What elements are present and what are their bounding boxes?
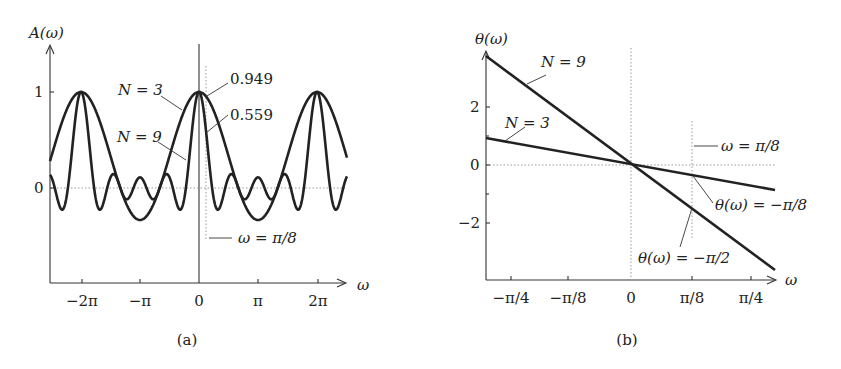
a-xtick: 0 [194,292,204,310]
a-xtick: −π [129,292,152,310]
panel-a: A(ω) 1 0 ω −2π −π 0 π 2π N = 3 N = 9 0.9… [27,24,369,349]
b-ytick: −2 [458,214,480,232]
a-value-0949: 0.949 [230,70,273,88]
a-x-label: ω [357,276,369,294]
b-ytick: 2 [470,98,480,116]
a-xtick: 2π [308,292,328,310]
b-ytick: 0 [470,156,480,174]
b-xtick: −π/4 [492,289,529,307]
b-y-label: θ(ω) [475,30,508,48]
a-ytick-1: 1 [34,83,44,101]
a-y-label: A(ω) [27,24,64,42]
b-caption: (b) [616,331,637,349]
a-label-n3: N = 3 [117,81,163,99]
b-xtick: π/4 [739,289,763,307]
a-xtick: −2π [66,292,98,310]
b-x-label: ω [785,271,797,289]
panel-b: θ(ω) 2 0 −2 ω −π/4 −π/8 0 π/8 π/4 N = 9 … [458,30,807,349]
figure-canvas: A(ω) 1 0 ω −2π −π 0 π 2π N = 3 N = 9 0.9… [0,0,841,369]
a-value-0559: 0.559 [230,106,273,124]
b-xtick: π/8 [680,289,704,307]
b-xtick: 0 [626,289,636,307]
b-theta-pi2-label: θ(ω) = −π/2 [638,249,730,267]
b-omega-annotation: ω = π/8 [721,137,780,155]
b-theta-pi8-label: θ(ω) = −π/8 [715,196,807,214]
a-omega-annotation: ω = π/8 [238,229,297,247]
b-label-n3: N = 3 [504,114,550,132]
b-label-n9: N = 9 [540,53,586,71]
b-xtick: −π/8 [549,289,586,307]
a-xtick: π [253,292,263,310]
a-ytick-0: 0 [34,179,44,197]
a-caption: (a) [177,331,198,349]
a-label-n9: N = 9 [116,128,162,146]
